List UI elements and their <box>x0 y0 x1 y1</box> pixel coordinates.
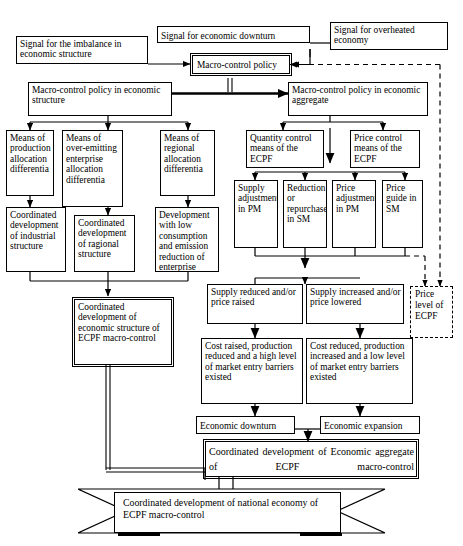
node-supply-adjustment-pm[interactable]: Supply adjustment in PM <box>234 180 278 248</box>
node-economic-expansion[interactable]: Economic expansion <box>320 416 420 434</box>
node-label: Economic downturn <box>200 421 276 431</box>
node-mcp-structure[interactable]: Macro-control policy in economic structu… <box>28 82 172 116</box>
node-label: Supply adjustment in PM <box>238 183 278 214</box>
node-label: Coordinated development of economic stru… <box>78 302 160 344</box>
node-label: Cost reduced, production increased and a… <box>310 341 405 383</box>
node-label: Macro-control policy in economic aggrega… <box>292 85 420 106</box>
node-coord-econ-structure[interactable]: Coordinated development of economic stru… <box>74 299 172 365</box>
node-label: Supply increased and/or price lowered <box>310 287 401 308</box>
node-coord-industrial[interactable]: Coordinated development of industrial st… <box>6 207 66 272</box>
node-dev-low-consumption[interactable]: Development with low consumption and emi… <box>155 207 219 272</box>
node-coord-ragional[interactable]: Coordinated development of ragional stru… <box>74 215 135 272</box>
node-coord-national[interactable]: Coordinated development of national econ… <box>114 492 341 533</box>
node-label: Means of regional allocation differentia <box>164 133 203 175</box>
node-label: Macro-control policy <box>197 60 277 70</box>
node-label: Signal for overheated economy <box>334 25 415 46</box>
node-label: Coordinated development of national econ… <box>123 497 318 520</box>
node-label: Reduction or repurchase in SM <box>287 183 327 225</box>
node-cost-reduced[interactable]: Cost reduced, production increased and a… <box>306 338 413 404</box>
node-quantity-control[interactable]: Quantity control means of the ECPF <box>246 130 324 168</box>
node-mcp-aggregate[interactable]: Macro-control policy in economic aggrega… <box>288 82 428 116</box>
node-label: Macro-control policy in economic structu… <box>32 85 160 106</box>
node-reduction-repurchase-sm[interactable]: Reduction or repurchase in SM <box>283 180 327 248</box>
node-label: Development with low consumption and emi… <box>159 210 210 273</box>
node-label: Price adjustment in PM <box>336 183 376 214</box>
node-means-overemitting[interactable]: Means of over-emitting enterprise alloca… <box>62 130 123 207</box>
node-label: Signal for the imbalance in economic str… <box>20 39 122 60</box>
node-economic-downturn[interactable]: Economic downturn <box>196 416 295 434</box>
node-label: Coordinated development of ragional stru… <box>78 218 126 260</box>
flowchart-canvas: Signal for the imbalance in economic str… <box>0 0 463 546</box>
node-macro-control-policy[interactable]: Macro-control policy <box>192 55 290 74</box>
node-signal-overheated[interactable]: Signal for overheated economy <box>330 22 448 50</box>
node-label: Signal for economic downturn <box>161 31 275 41</box>
node-label: Means of over-emitting enterprise alloca… <box>66 133 117 185</box>
node-signal-downturn[interactable]: Signal for economic downturn <box>157 26 310 43</box>
node-means-production[interactable]: Means of production allocation different… <box>6 130 54 196</box>
node-signal-imbalance[interactable]: Signal for the imbalance in economic str… <box>16 36 148 64</box>
node-price-adjustment-pm[interactable]: Price adjustment in PM <box>332 180 376 248</box>
node-label: Coordinated development of Economic aggr… <box>209 446 414 472</box>
node-label: Means of production allocation different… <box>10 133 51 175</box>
node-supply-reduced[interactable]: Supply reduced and/or price raised <box>207 284 303 324</box>
node-coord-econ-aggregate[interactable]: Coordinated development of Economic aggr… <box>205 441 417 477</box>
node-price-level-ecpf[interactable]: Price level of ECPF <box>410 286 453 338</box>
node-label: Cost raised, production reduced and a hi… <box>205 341 297 383</box>
node-label: Price control means of the ECPF <box>354 133 402 164</box>
node-label: Supply reduced and/or price raised <box>211 287 296 308</box>
node-means-regional[interactable]: Means of regional allocation differentia <box>160 130 215 196</box>
node-price-guide-sm[interactable]: Price guide in SM <box>382 180 423 248</box>
banner-shadow-left <box>118 533 160 536</box>
node-cost-raised[interactable]: Cost raised, production reduced and a hi… <box>201 338 303 404</box>
node-label: Coordinated development of industrial st… <box>10 210 58 252</box>
banner-shadow-right <box>300 533 342 536</box>
node-price-control[interactable]: Price control means of the ECPF <box>350 130 420 168</box>
node-label: Price guide in SM <box>386 183 416 214</box>
node-label: Economic expansion <box>324 421 402 431</box>
node-label: Quantity control means of the ECPF <box>250 133 312 164</box>
node-label: Price level of ECPF <box>415 289 443 321</box>
node-supply-increased[interactable]: Supply increased and/or price lowered <box>306 284 404 324</box>
